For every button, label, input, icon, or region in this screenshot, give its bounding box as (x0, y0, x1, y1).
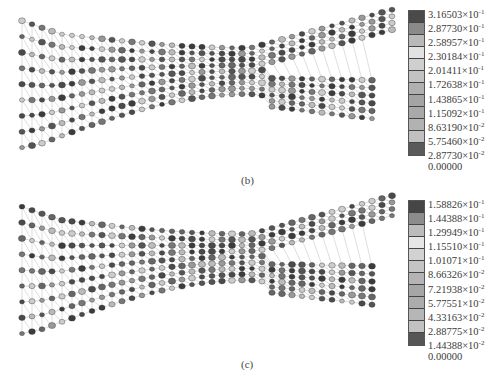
mesh-plot-c (0, 188, 400, 358)
colorbar-swatch (409, 201, 424, 213)
colorbar-swatch (409, 321, 424, 333)
colorbar-label: 2.88775×10-2 (428, 322, 484, 336)
colorbar-swatch (409, 261, 424, 273)
colorbar-swatch (409, 71, 424, 83)
colorbar-label: 2.87730×10-2 (428, 146, 484, 160)
colorbar-swatches-c (408, 200, 425, 346)
colorbar-label: 1.15092×10-1 (428, 104, 484, 118)
colorbar-label: 0.00000 (428, 350, 484, 364)
colorbar-labels-c: 1.58826×10-11.44388×10-11.29949×10-11.15… (428, 195, 484, 364)
colorbar-label: 1.44388×10-2 (428, 336, 484, 350)
colorbar-swatch (409, 213, 424, 225)
caption-b: (b) (241, 174, 254, 186)
colorbar-swatches-b (408, 10, 425, 156)
colorbar-swatch (409, 285, 424, 297)
colorbar-label: 1.01071×10-1 (428, 251, 484, 265)
colorbar-swatch (409, 95, 424, 107)
colorbar-label: 5.75460×10-2 (428, 132, 484, 146)
colorbar-swatch (409, 83, 424, 95)
colorbar-swatch (409, 59, 424, 71)
colorbar-label: 1.58826×10-1 (428, 195, 484, 209)
colorbar-label: 2.87730×10-1 (428, 19, 484, 33)
colorbar-label: 2.01411×10-1 (428, 61, 484, 75)
colorbar-swatch (409, 237, 424, 249)
colorbar-swatch (409, 143, 424, 155)
colorbar-swatch (409, 249, 424, 261)
colorbar-label: 1.29949×10-1 (428, 223, 484, 237)
colorbar-swatch (409, 119, 424, 131)
colorbar-swatch (409, 131, 424, 143)
colorbar-label: 1.15510×10-1 (428, 237, 484, 251)
colorbar-label: 4.33163×10-2 (428, 308, 484, 322)
colorbar-swatch (409, 47, 424, 59)
colorbar-label: 2.58957×10-1 (428, 33, 484, 47)
figure-panel-b: 3.16503×10-12.87730×10-12.58957×10-12.30… (0, 0, 499, 190)
colorbar-swatch (409, 107, 424, 119)
colorbar-swatch (409, 11, 424, 23)
mesh-plot-b (0, 0, 400, 175)
colorbar-label: 2.30184×10-1 (428, 47, 484, 61)
figure-panel-c: 1.58826×10-11.44388×10-11.29949×10-11.15… (0, 188, 499, 381)
colorbar-swatch (409, 35, 424, 47)
colorbar-swatch (409, 225, 424, 237)
colorbar-label: 7.21938×10-2 (428, 280, 484, 294)
colorbar-swatch (409, 273, 424, 285)
colorbar-label: 0.00000 (428, 160, 484, 174)
colorbar-label: 8.66326×10-2 (428, 265, 484, 279)
colorbar-swatch (409, 23, 424, 35)
colorbar-label: 1.72638×10-1 (428, 75, 484, 89)
colorbar-swatch (409, 297, 424, 309)
colorbar-label: 5.77551×10-2 (428, 294, 484, 308)
colorbar-label: 1.43865×10-1 (428, 90, 484, 104)
colorbar-label: 1.44388×10-1 (428, 209, 484, 223)
colorbar-label: 3.16503×10-1 (428, 5, 484, 19)
caption-c: (c) (241, 358, 253, 370)
colorbar-swatch (409, 309, 424, 321)
colorbar-swatch (409, 333, 424, 345)
colorbar-label: 8.63190×10-2 (428, 118, 484, 132)
colorbar-labels-b: 3.16503×10-12.87730×10-12.58957×10-12.30… (428, 5, 484, 174)
